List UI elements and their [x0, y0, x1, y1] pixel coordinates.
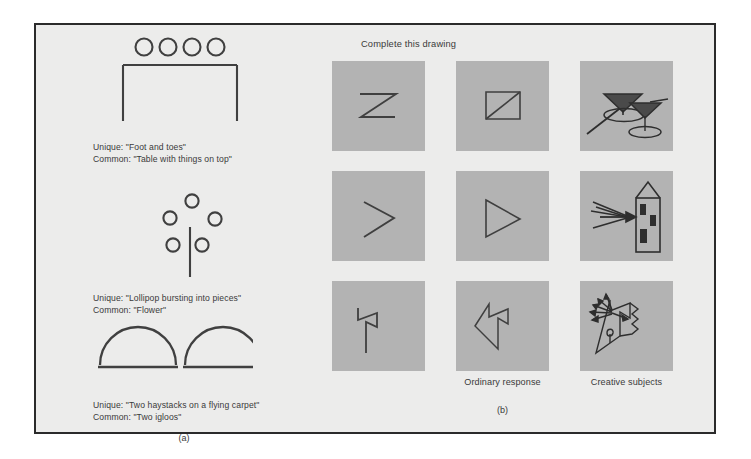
- figure-frame: Unique: "Foot and toes" Common: "Table w…: [34, 23, 716, 434]
- zigzag-z-stimulus-cell: [332, 61, 425, 151]
- complete-this-drawing-heading: Complete this drawing: [361, 39, 456, 49]
- stimulus-1-common-caption: Common: "Table with things on top": [93, 153, 232, 165]
- triangle-outline-cell: [456, 171, 549, 261]
- two-cocktail-glasses-cell: [580, 61, 673, 151]
- angular-polygon-cell: [456, 281, 549, 371]
- chevron-stimulus-icon: [332, 171, 425, 261]
- triangle-outline-icon: [456, 171, 549, 261]
- stimulus-2-unique-caption: Unique: "Lollipop bursting into pieces": [93, 292, 241, 304]
- panel-b-label: (b): [456, 405, 549, 415]
- table-with-circles-figure: [98, 31, 268, 131]
- arrow-striking-tower-icon: [580, 171, 673, 261]
- panel-b: Complete this drawing: [332, 25, 714, 432]
- chevron-stimulus-cell: [332, 171, 425, 261]
- two-cocktail-glasses-icon: [580, 61, 673, 151]
- stimulus-3-common-caption: Common: "Two igloos": [93, 411, 181, 423]
- face-kite-with-rays-cell: [580, 281, 673, 371]
- stem-with-circles-figure: [132, 171, 252, 283]
- ordinary-response-column-label: Ordinary response: [456, 377, 549, 387]
- square-with-diagonal-cell: [456, 61, 549, 151]
- face-kite-with-rays-icon: [580, 281, 673, 371]
- table-with-circles-svg: [98, 31, 268, 131]
- panel-a: Unique: "Foot and toes" Common: "Table w…: [36, 25, 332, 432]
- flag-hook-stimulus-cell: [332, 281, 425, 371]
- square-with-diagonal-icon: [456, 61, 549, 151]
- two-semicircles-svg: [93, 313, 253, 375]
- panel-a-label: (a): [36, 433, 332, 443]
- stimulus-1-unique-caption: Unique: "Foot and toes": [93, 141, 186, 153]
- arrow-striking-tower-cell: [580, 171, 673, 261]
- stem-with-circles-svg: [132, 171, 252, 283]
- two-semicircles-figure: [93, 313, 253, 375]
- zigzag-z-stimulus-icon: [332, 61, 425, 151]
- creative-subjects-column-label: Creative subjects: [580, 377, 673, 387]
- stimulus-3-unique-caption: Unique: "Two haystacks on a flying carpe…: [93, 399, 260, 411]
- flag-hook-stimulus-icon: [332, 281, 425, 371]
- angular-polygon-icon: [456, 281, 549, 371]
